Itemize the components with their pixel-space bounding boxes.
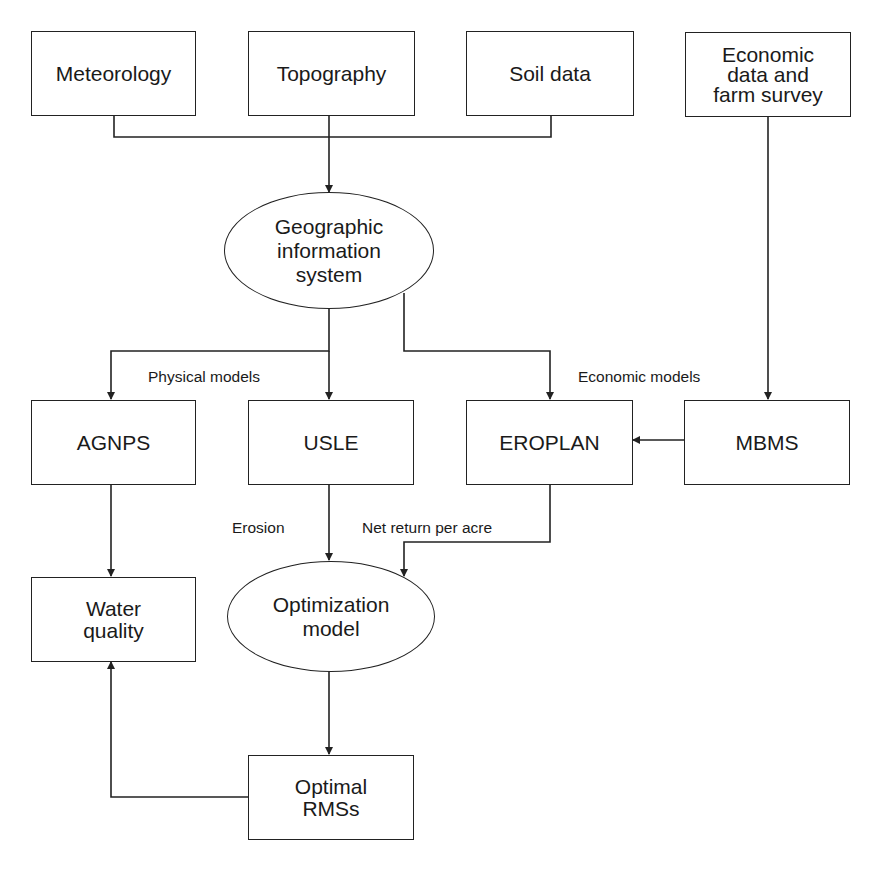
eroplan-box: EROPLAN: [466, 400, 633, 485]
erosion-label: Erosion: [232, 519, 285, 537]
topography-label: Topography: [277, 63, 387, 85]
water-quality-label: Water quality: [83, 598, 144, 642]
meteorology-label: Meteorology: [56, 63, 172, 85]
soil-data-box: Soil data: [466, 31, 634, 116]
topography-box: Topography: [248, 31, 415, 116]
usle-box: USLE: [248, 400, 414, 485]
connector-meteorology: [114, 115, 551, 137]
economic-data-box: Economic data and farm survey: [685, 32, 851, 117]
connector-rmss-water: [111, 662, 248, 797]
optimal-rmss-label: Optimal RMSs: [295, 776, 367, 820]
optimization-model-ellipse: Optimization model: [227, 561, 435, 672]
agnps-box: AGNPS: [31, 400, 196, 485]
water-quality-box: Water quality: [31, 577, 196, 662]
connector-gis-eroplan: [404, 293, 550, 399]
usle-label: USLE: [304, 432, 359, 454]
mbms-label: MBMS: [736, 432, 799, 454]
agnps-label: AGNPS: [77, 432, 151, 454]
eroplan-label: EROPLAN: [499, 432, 599, 454]
optimization-model-label: Optimization model: [273, 593, 390, 641]
mbms-box: MBMS: [684, 400, 850, 485]
soil-data-label: Soil data: [509, 63, 591, 85]
net-return-label: Net return per acre: [362, 519, 492, 537]
meteorology-box: Meteorology: [31, 31, 196, 116]
economic-models-label: Economic models: [578, 368, 700, 386]
flowchart-diagram: Meteorology Topography Soil data Economi…: [0, 0, 881, 871]
gis-ellipse: Geographic information system: [224, 192, 434, 309]
physical-models-label: Physical models: [148, 368, 260, 386]
gis-label: Geographic information system: [275, 215, 384, 287]
optimal-rmss-box: Optimal RMSs: [248, 755, 414, 840]
economic-data-label: Economic data and farm survey: [713, 45, 823, 105]
